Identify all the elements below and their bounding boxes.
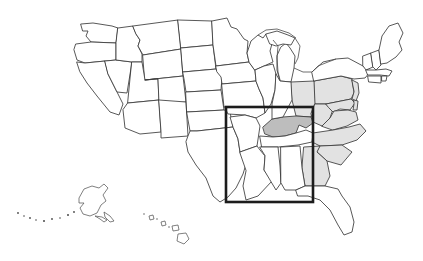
state-ks bbox=[186, 90, 224, 112]
lake-erie-outline bbox=[294, 68, 312, 72]
state-fl bbox=[296, 186, 354, 235]
state-ak bbox=[79, 184, 108, 216]
us-map-svg bbox=[0, 0, 423, 261]
state-or bbox=[74, 42, 116, 63]
state-nd bbox=[178, 20, 213, 48]
hawaii-kauai bbox=[149, 215, 154, 220]
hawaii-maui bbox=[172, 225, 179, 231]
state-sd bbox=[181, 45, 216, 72]
hawaii-bigisland bbox=[177, 233, 189, 244]
hawaii-oahu bbox=[161, 221, 166, 226]
inset-alaska bbox=[17, 184, 114, 222]
aleutian-specks bbox=[17, 211, 75, 222]
lake-huron-outline bbox=[295, 38, 300, 64]
state-me bbox=[379, 23, 403, 64]
state-wy bbox=[143, 49, 183, 80]
inset-hawaii bbox=[143, 213, 189, 244]
state-mi bbox=[277, 43, 295, 82]
state-al bbox=[281, 146, 305, 190]
northeast-states-group bbox=[312, 23, 403, 83]
state-mi-up bbox=[266, 31, 295, 46]
state-wa bbox=[81, 23, 118, 43]
state-mn bbox=[212, 18, 249, 66]
hawaii-specks bbox=[143, 213, 169, 227]
us-map-figure bbox=[0, 0, 423, 261]
state-ia bbox=[216, 62, 256, 84]
state-nm bbox=[159, 100, 188, 138]
state-ne bbox=[183, 69, 222, 92]
west-states-group bbox=[74, 20, 188, 138]
state-ct bbox=[368, 76, 381, 83]
state-oh bbox=[291, 81, 315, 117]
state-az bbox=[123, 100, 161, 134]
state-ma bbox=[366, 69, 392, 76]
state-ri bbox=[382, 76, 387, 81]
state-de bbox=[353, 100, 358, 110]
